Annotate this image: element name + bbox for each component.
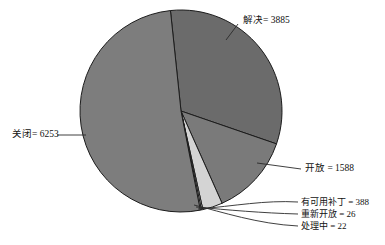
slice-label-reopened: 重新开放 = 26 (301, 208, 356, 219)
slice-label-resolved: 解决= 3885 (243, 14, 290, 25)
pie-slices-group (80, 10, 282, 212)
pie-chart-figure: 解决= 3885开放 = 1588有可用补丁 = 388重新开放 = 26处理中… (0, 0, 385, 245)
leader-line-reopened (196, 207, 298, 214)
slice-label-open: 开放 = 1588 (305, 162, 354, 173)
pie-chart-canvas: 解决= 3885开放 = 1588有可用补丁 = 388重新开放 = 26处理中… (0, 0, 385, 245)
slice-label-patch-available: 有可用补丁 = 388 (301, 196, 370, 207)
slice-label-closed: 关闭= 6253 (12, 128, 59, 139)
slice-label-in-progress: 处理中 = 22 (301, 220, 347, 231)
